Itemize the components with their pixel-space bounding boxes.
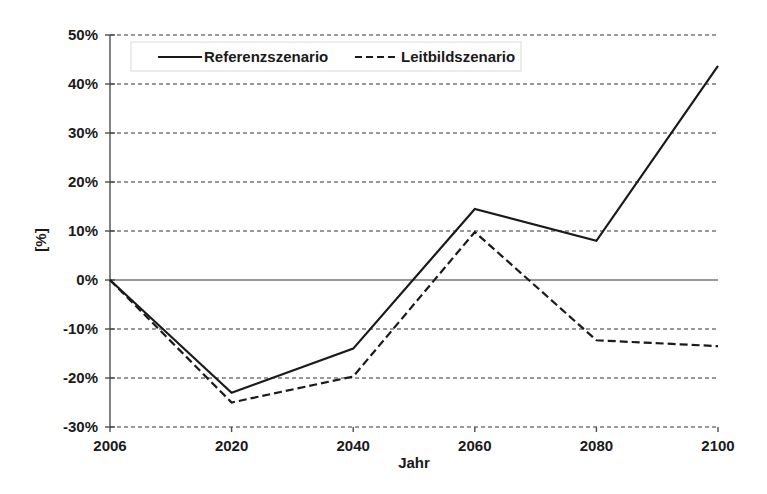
chart-container: 50%40%30%20%10%0%-10%-20%-30% 2006202020… (0, 0, 767, 494)
y-axis-title: [%] (32, 228, 49, 251)
x-tick-label: 2040 (337, 437, 370, 454)
x-tick-label: 2006 (93, 437, 126, 454)
x-axis-tick-labels: 200620202040206020802100 (93, 437, 734, 454)
legend-label-referenzszenario: Referenzszenario (204, 48, 328, 65)
x-axis-title: Jahr (398, 454, 430, 471)
y-tick-label: 20% (68, 173, 98, 190)
chart-legend: Referenzszenario Leitbildszenario (131, 42, 521, 71)
y-tick-label: 50% (68, 26, 98, 43)
x-tick-label: 2020 (215, 437, 248, 454)
x-tick-label: 2060 (458, 437, 491, 454)
data-series-group (110, 66, 718, 403)
line-chart: 50%40%30%20%10%0%-10%-20%-30% 2006202020… (0, 0, 767, 494)
y-tick-label: 0% (76, 271, 98, 288)
y-tick-label: 40% (68, 75, 98, 92)
x-tick-label: 2100 (701, 437, 734, 454)
legend-label-leitbildszenario: Leitbildszenario (401, 48, 515, 65)
y-axis-tick-labels: 50%40%30%20%10%0%-10%-20%-30% (63, 26, 98, 435)
x-axis-ticks (110, 427, 718, 432)
y-tick-label: 10% (68, 222, 98, 239)
series-line-referenzszenario (110, 66, 718, 393)
gridlines-horizontal (110, 35, 718, 427)
y-tick-label: -10% (63, 320, 98, 337)
y-tick-label: 30% (68, 124, 98, 141)
y-tick-label: -20% (63, 369, 98, 386)
y-tick-label: -30% (63, 418, 98, 435)
series-line-leitbildszenario (110, 232, 718, 403)
x-tick-label: 2080 (580, 437, 613, 454)
